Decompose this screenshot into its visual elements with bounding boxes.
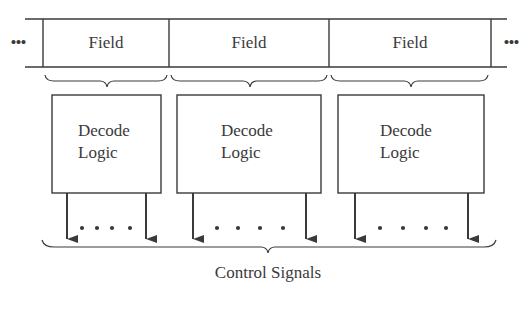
decoder-3-line2: Logic [380,143,420,162]
field-label-1: Field [89,33,124,52]
signal-ellipsis-dots [80,226,448,230]
brace-field-1 [45,75,167,87]
field-label-3: Field [393,33,428,52]
trailing-ellipsis: ••• [504,33,519,52]
control-signals-label: Control Signals [215,263,321,282]
decoder-3-line1: Decode [380,121,432,140]
field-label-2: Field [232,33,267,52]
decoder-1-line2: Logic [78,143,118,162]
brace-field-2 [171,75,327,87]
field-braces [45,75,488,87]
output-arrows [67,193,468,239]
decoder-2-line1: Decode [221,121,273,140]
decode-diagram: ••• ••• Field Field Field Decode Logic D… [0,0,527,311]
decoder-2-line2: Logic [221,143,261,162]
leading-ellipsis: ••• [11,33,26,52]
decoder-1-line1: Decode [78,121,130,140]
control-signals-brace [42,240,496,253]
brace-field-3 [331,75,488,87]
